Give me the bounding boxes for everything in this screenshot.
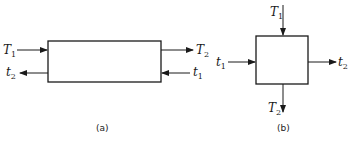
diagram-a: T1 t2 T2 t1 (a) <box>3 41 209 133</box>
caption-a: (a) <box>96 123 109 133</box>
diagram-b: T1 T2 t1 t2 (b) <box>216 5 348 133</box>
label-t2-a: t2 <box>6 65 16 81</box>
heat-exchanger-diagrams: T1 t2 T2 t1 (a) T1 T2 t1 t2 (b) <box>0 0 352 144</box>
label-T1-a: T1 <box>3 43 16 59</box>
label-T1-b: T1 <box>270 5 283 21</box>
exchanger-box-b <box>256 36 308 84</box>
label-t1-b: t1 <box>216 55 226 71</box>
label-T2-b: T2 <box>268 101 281 117</box>
label-t1-a: t1 <box>193 65 203 81</box>
label-t2-b: t2 <box>338 55 348 71</box>
caption-b: (b) <box>277 123 290 133</box>
label-T2-a: T2 <box>196 43 209 59</box>
exchanger-box-a <box>48 41 161 82</box>
